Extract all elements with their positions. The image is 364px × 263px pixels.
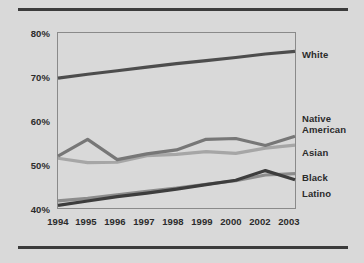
series-label-native-american: Native (302, 114, 331, 125)
xtick-label-2003: 2003 (272, 216, 306, 227)
series-label-native-american-line2: American (302, 125, 346, 136)
plot-area-border (58, 33, 296, 209)
ytick-label-50: 50% (20, 160, 50, 171)
series-label-white: White (302, 50, 328, 61)
ytick-label-70: 70% (20, 72, 50, 83)
ytick-label-40: 40% (20, 204, 50, 215)
series-line-white (58, 51, 295, 78)
series-label-black: Black (302, 173, 328, 184)
series-label-asian: Asian (302, 148, 328, 159)
series-lines-group (58, 51, 295, 205)
ytick-label-60: 60% (20, 116, 50, 127)
chart-figure: 80% 70% 60% 50% 40% 1994 1995 1996 1997 … (0, 0, 364, 263)
ytick-label-80: 80% (20, 28, 50, 39)
series-line-asian (58, 145, 295, 163)
series-label-latino: Latino (302, 189, 331, 200)
series-line-black (58, 174, 295, 201)
